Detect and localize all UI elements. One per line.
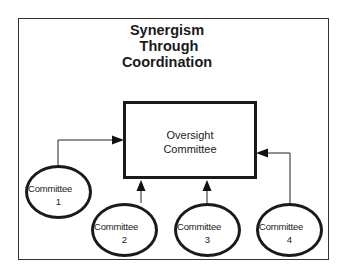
committee-number: 2 — [94, 234, 155, 245]
connector-committee-4 — [264, 153, 290, 203]
committee-label: Committee — [28, 183, 72, 194]
committee-4-node: Committee 4 — [256, 203, 323, 257]
arrowhead-up-icon — [137, 180, 146, 191]
committee-label: Committee — [177, 221, 221, 232]
committee-number: 1 — [28, 196, 89, 207]
committee-label: Committee — [259, 221, 303, 232]
oversight-committee-box: Oversight Committee — [123, 101, 257, 179]
committee-1-node: Committee 1 — [25, 165, 92, 219]
connector-committee-1 — [58, 140, 116, 165]
committee-number: 3 — [177, 234, 238, 245]
arrowhead-left-icon — [256, 149, 268, 158]
oversight-line-1: Oversight — [126, 128, 254, 142]
arrowhead-up-icon — [203, 180, 212, 191]
oversight-line-2: Committee — [126, 142, 254, 156]
committee-label: Committee — [94, 221, 138, 232]
committee-number: 4 — [259, 234, 320, 245]
committee-2-node: Committee 2 — [91, 203, 158, 257]
committee-3-node: Committee 3 — [174, 203, 241, 257]
